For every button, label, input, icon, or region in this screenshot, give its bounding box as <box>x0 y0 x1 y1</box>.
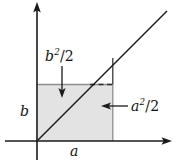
shaded-rectangle-region <box>38 85 114 142</box>
label-a-squared-over-two: a2/2 <box>131 98 159 113</box>
young-inequality-figure: b2/2 a2/2 b a <box>0 0 179 168</box>
label-a-squared-denominator: /2 <box>145 98 159 114</box>
label-b: b <box>20 104 29 118</box>
label-b-squared-denominator: /2 <box>60 48 74 64</box>
label-a-squared-base: a <box>131 98 140 114</box>
label-a: a <box>70 144 79 158</box>
figure-canvas <box>0 0 179 168</box>
label-b-squared-base: b <box>45 48 54 64</box>
label-b-squared-over-two: b2/2 <box>45 48 74 63</box>
